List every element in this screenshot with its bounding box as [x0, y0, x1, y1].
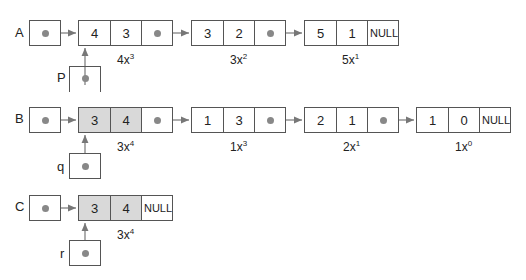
next-cell: [255, 21, 287, 45]
exp-cell: 0: [449, 108, 480, 132]
pointer-dot-icon: [42, 117, 49, 124]
exp-cell: 1: [337, 108, 368, 132]
head-pointer-b: [29, 107, 61, 133]
next-cell: [255, 108, 287, 132]
pointer-label-q: q: [57, 159, 64, 174]
coef-cell: 4: [79, 21, 111, 45]
term-label: 1x0: [455, 139, 472, 154]
node-b-3: 2 1: [304, 107, 399, 133]
node-b-2: 1 3: [191, 107, 286, 133]
node-a-3: 5 1 NULL: [304, 20, 399, 46]
coef-cell: 3: [79, 108, 111, 132]
null-cell: NULL: [142, 196, 174, 220]
exp-cell: 3: [111, 21, 142, 45]
term-label: 3x2: [230, 52, 247, 67]
term-label: 2x1: [343, 139, 360, 154]
exp-cell: 4: [111, 196, 142, 220]
node-a-1: 4 3: [78, 20, 173, 46]
pointer-dot-icon: [42, 205, 49, 212]
pointer-dot-icon: [82, 163, 89, 170]
pointer-box-r: [69, 240, 101, 266]
node-b-4: 1 0 NULL: [416, 107, 511, 133]
coef-cell: 2: [305, 108, 337, 132]
pointer-label-r: r: [60, 246, 64, 261]
node-c-1: 3 4 NULL: [78, 195, 173, 221]
term-label: 4x3: [117, 52, 134, 67]
coef-cell: 3: [79, 196, 111, 220]
pointer-dot-icon: [154, 117, 161, 124]
pointer-label-p: P: [57, 70, 66, 85]
pointer-box-q: [69, 153, 101, 179]
coef-cell: 1: [417, 108, 449, 132]
pointer-dot-icon: [82, 250, 89, 257]
coef-cell: 1: [192, 108, 224, 132]
pointer-dot-icon: [380, 117, 387, 124]
list-label-c: C: [15, 199, 24, 214]
pointer-dot-icon: [267, 30, 274, 37]
head-pointer-c: [29, 195, 61, 221]
pointer-dot-icon: [82, 75, 89, 82]
null-cell: NULL: [480, 108, 512, 132]
pointer-dot-icon: [42, 30, 49, 37]
next-cell: [368, 108, 400, 132]
coef-cell: 5: [305, 21, 337, 45]
next-cell: [142, 21, 174, 45]
coef-cell: 3: [192, 21, 224, 45]
node-b-1: 3 4: [78, 107, 173, 133]
null-cell: NULL: [368, 21, 400, 45]
head-pointer-a: [29, 20, 61, 46]
exp-cell: 1: [337, 21, 368, 45]
term-label: 5x1: [342, 52, 359, 67]
next-cell: [142, 108, 174, 132]
exp-cell: 3: [224, 108, 255, 132]
exp-cell: 4: [111, 108, 142, 132]
list-label-a: A: [15, 25, 24, 40]
pointer-dot-icon: [154, 30, 161, 37]
list-label-b: B: [15, 111, 24, 126]
node-a-2: 3 2: [191, 20, 286, 46]
exp-cell: 2: [224, 21, 255, 45]
term-label: 1x3: [230, 139, 247, 154]
term-label: 3x4: [117, 139, 134, 154]
pointer-box-p: [69, 66, 101, 92]
term-label: 3x4: [117, 227, 134, 242]
pointer-dot-icon: [267, 117, 274, 124]
